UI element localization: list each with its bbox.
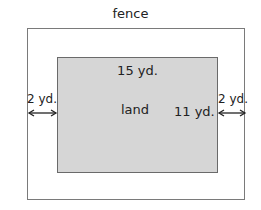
land-label: land: [121, 102, 149, 117]
land-height-label: 11 yd.: [174, 104, 215, 119]
left-gap-label: 2 yd.: [27, 92, 57, 106]
right-gap-label: 2 yd.: [218, 92, 248, 106]
left-gap-double-arrow-icon: [28, 108, 57, 118]
fence-label: fence: [0, 6, 261, 21]
right-gap-double-arrow-icon: [218, 108, 246, 118]
land-width-label: 15 yd.: [57, 63, 218, 78]
